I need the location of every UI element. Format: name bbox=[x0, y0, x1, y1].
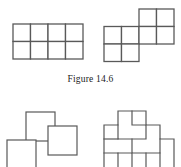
polyomino-cell bbox=[104, 27, 122, 45]
grid-cell bbox=[13, 42, 31, 60]
figure-bottom-left-overlapping-squares bbox=[7, 112, 77, 167]
grid-cell bbox=[66, 24, 84, 42]
grid-cell bbox=[13, 24, 31, 42]
tiling-cut bbox=[132, 139, 160, 153]
polyomino-cell bbox=[139, 9, 157, 27]
grid-cell bbox=[48, 42, 66, 60]
tiling-cut bbox=[118, 153, 132, 167]
grid-cell bbox=[66, 42, 84, 60]
polyomino-cell bbox=[104, 44, 122, 62]
figure-bottom-right-interlocking-tiling bbox=[104, 111, 174, 167]
figure-top-left-rectangle-grid bbox=[13, 24, 83, 59]
tiling-cut bbox=[118, 111, 146, 139]
grid-cell bbox=[31, 24, 49, 42]
overlap-square bbox=[48, 126, 77, 155]
overlap-square bbox=[7, 140, 36, 167]
figure-page: Figure 14.6 bbox=[0, 0, 181, 167]
polyomino-cell bbox=[157, 9, 175, 27]
figure-caption: Figure 14.6 bbox=[0, 74, 181, 84]
figure-top-right-staircase-polyomino bbox=[104, 9, 174, 62]
polyomino-cell bbox=[139, 27, 157, 45]
grid-cell bbox=[48, 24, 66, 42]
polyomino-cell bbox=[122, 44, 140, 62]
polyomino-cell bbox=[157, 27, 175, 45]
tiling-cut bbox=[104, 153, 118, 167]
grid-cell bbox=[31, 42, 49, 60]
polyomino-cell bbox=[122, 27, 140, 45]
